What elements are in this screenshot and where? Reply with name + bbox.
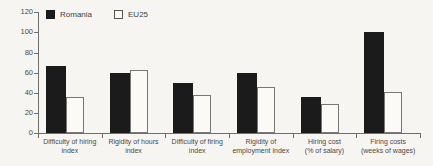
y-axis-line	[38, 12, 39, 134]
category-label-5: Firing costs(weeks of wages)	[361, 137, 415, 155]
bar-romania-0	[46, 66, 66, 133]
bar-eu25-5	[384, 92, 402, 133]
bar-chart-figure: RomaniaEU25 020406080100120Difficulty of…	[0, 0, 433, 166]
y-tick-label: 80	[7, 49, 33, 57]
y-tick	[34, 113, 38, 114]
legend-label: Romania	[60, 10, 92, 19]
category-label-4: Hiring cost(% of salary)	[305, 137, 344, 155]
plot-area: RomaniaEU25 020406080100120Difficulty of…	[0, 0, 433, 166]
category-label-line: Rigidity of hours	[108, 137, 158, 146]
bar-romania-5	[364, 32, 384, 133]
y-tick-label: 60	[7, 69, 33, 77]
x-tick	[165, 133, 166, 138]
x-tick	[420, 133, 421, 138]
y-tick-label: 20	[7, 109, 33, 117]
category-label-line: index	[43, 146, 96, 155]
category-label-line: Difficulty of firing	[172, 137, 223, 146]
legend-swatch-icon	[46, 10, 55, 19]
category-label-line: index	[108, 146, 158, 155]
y-tick-label: 40	[7, 89, 33, 97]
y-tick	[34, 32, 38, 33]
x-tick	[102, 133, 103, 138]
y-tick	[34, 93, 38, 94]
bar-romania-3	[237, 73, 257, 133]
category-label-3: Rigidity ofemployment index	[232, 137, 289, 155]
x-tick	[38, 133, 39, 138]
category-label-line: (% of salary)	[305, 146, 344, 155]
category-label-2: Difficulty of firingindex	[172, 137, 223, 155]
legend-swatch-icon	[114, 10, 123, 19]
y-tick-label: 120	[7, 8, 33, 16]
x-tick	[293, 133, 294, 138]
bar-eu25-0	[66, 97, 84, 133]
bar-romania-2	[173, 83, 193, 133]
y-tick	[34, 12, 38, 13]
y-tick	[34, 53, 38, 54]
x-tick	[229, 133, 230, 138]
legend-label: EU25	[128, 10, 148, 19]
bar-eu25-3	[257, 87, 275, 133]
bar-eu25-4	[321, 104, 339, 133]
category-label-line: Firing costs	[361, 137, 415, 146]
category-label-line: employment index	[232, 146, 289, 155]
category-label-line: Rigidity of	[232, 137, 289, 146]
category-label-line: index	[172, 146, 223, 155]
category-label-line: Difficulty of hiring	[43, 137, 96, 146]
chart-legend: RomaniaEU25	[46, 10, 148, 19]
y-tick-label: 100	[7, 28, 33, 36]
y-tick-label: 0	[7, 129, 33, 137]
bar-romania-4	[301, 97, 321, 133]
x-tick	[356, 133, 357, 138]
bar-eu25-1	[130, 70, 148, 133]
y-tick	[34, 73, 38, 74]
category-label-line: Hiring cost	[305, 137, 344, 146]
bar-romania-1	[110, 73, 130, 133]
legend-item-eu25: EU25	[114, 10, 148, 19]
legend-item-romania: Romania	[46, 10, 92, 19]
category-label-1: Rigidity of hoursindex	[108, 137, 158, 155]
bar-eu25-2	[193, 95, 211, 133]
category-label-0: Difficulty of hiringindex	[43, 137, 96, 155]
category-label-line: (weeks of wages)	[361, 146, 415, 155]
